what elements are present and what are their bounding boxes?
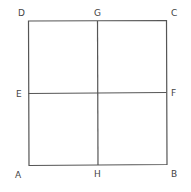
label-c: C [171,8,177,18]
label-f: F [171,88,176,98]
label-g: G [94,8,101,18]
square-diagram: D G C E F A H B [0,0,191,192]
label-h: H [94,169,101,179]
label-d: D [18,8,25,18]
segment-ef [29,93,167,94]
label-a: A [15,170,22,180]
label-e: E [16,89,22,99]
label-b: B [171,169,177,179]
